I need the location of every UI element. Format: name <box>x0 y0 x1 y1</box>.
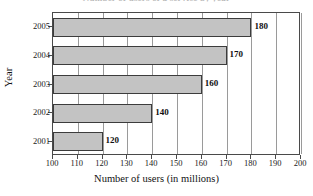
bar <box>53 46 227 65</box>
x-tick-label: 180 <box>238 158 262 168</box>
x-tick-label: 120 <box>90 158 114 168</box>
bar-value-label: 170 <box>230 49 244 59</box>
chart-title: Number of users of a service by year <box>0 0 313 2</box>
x-tick-label: 140 <box>139 158 163 168</box>
bar-value-label: 120 <box>106 135 120 145</box>
gridline <box>301 13 302 154</box>
x-tick-label: 100 <box>40 158 64 168</box>
y-tick-label: 2002 <box>33 107 50 117</box>
bar-chart: Number of users of a service by year 100… <box>0 0 313 196</box>
y-tick-label: 2003 <box>33 79 50 89</box>
bar <box>53 132 103 151</box>
bar-value-label: 180 <box>254 21 268 31</box>
x-tick-label: 150 <box>164 158 188 168</box>
bar <box>53 75 202 94</box>
bar <box>53 104 152 123</box>
bar-row <box>53 70 299 99</box>
x-tick-label: 190 <box>263 158 287 168</box>
x-tick-label: 170 <box>214 158 238 168</box>
bar-row <box>53 127 299 156</box>
y-tick-label: 2004 <box>33 50 50 60</box>
bar-row <box>53 99 299 128</box>
bar-value-label: 160 <box>205 78 219 88</box>
x-tick-label: 110 <box>65 158 89 168</box>
y-axis-title: Year <box>3 53 14 103</box>
bar-row <box>53 42 299 71</box>
y-tick-label: 2001 <box>33 136 50 146</box>
plot-area <box>52 12 300 155</box>
x-tick-label: 130 <box>114 158 138 168</box>
x-axis-title: Number of users (in millions) <box>0 173 313 184</box>
y-tick-label: 2005 <box>33 21 50 31</box>
x-tick-label: 200 <box>288 158 312 168</box>
x-tick-label: 160 <box>189 158 213 168</box>
bar <box>53 18 251 37</box>
bar-value-label: 140 <box>155 107 169 117</box>
